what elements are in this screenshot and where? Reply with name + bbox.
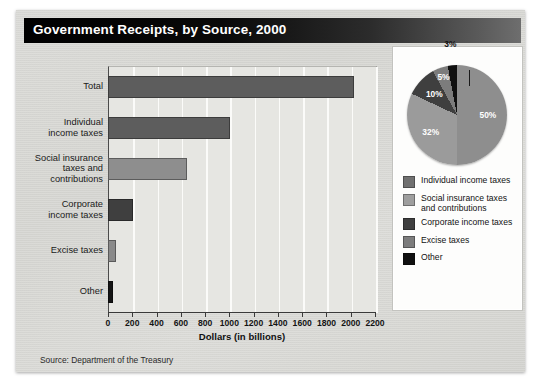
legend-item: Corporate income taxes: [403, 217, 519, 230]
x-axis-tick: [254, 312, 255, 317]
page-title: Government Receipts, by Source, 2000: [33, 22, 286, 37]
bar: [108, 76, 354, 98]
pie-chart: 50%32%10%5%3%: [407, 65, 507, 165]
x-axis-tick-label: 2000: [341, 318, 360, 328]
x-axis-tick: [205, 312, 206, 317]
pie-slice-label: 32%: [422, 127, 439, 137]
x-axis-tick-label: 1000: [220, 318, 239, 328]
bar-category-label: Other: [17, 286, 103, 297]
legend-label: Corporate income taxes: [421, 217, 512, 227]
legend-swatch: [403, 253, 415, 265]
x-axis-tick: [326, 312, 327, 317]
bar: [108, 199, 133, 221]
x-axis-tick-label: 600: [174, 318, 188, 328]
legend-swatch: [403, 218, 415, 230]
x-axis-title: Dollars (in billions): [108, 331, 376, 342]
x-axis-tick: [302, 312, 303, 317]
pie-slice-label: 3%: [444, 39, 456, 49]
pie-slice-label: 5%: [437, 72, 449, 82]
legend: Individual income taxesSocial insurance …: [403, 175, 519, 270]
bar-row: [108, 189, 133, 230]
gridline: [376, 67, 378, 313]
x-axis-tick-label: 1200: [244, 318, 263, 328]
legend-item: Social insurance taxes and contributions: [403, 193, 519, 213]
bar: [108, 281, 113, 303]
legend-swatch: [403, 176, 415, 188]
bar-category-label: Individual income taxes: [17, 117, 103, 138]
x-axis-tick-label: 200: [125, 318, 139, 328]
x-axis-tick-label: 1800: [317, 318, 336, 328]
legend-item: Other: [403, 252, 519, 265]
x-axis-line: [108, 312, 376, 313]
x-axis-tick: [229, 312, 230, 317]
x-axis-tick: [351, 312, 352, 317]
figure-card: Government Receipts, by Source, 2000 Dol…: [16, 10, 525, 372]
legend-item: Excise taxes: [403, 235, 519, 248]
legend-swatch: [403, 194, 415, 206]
bar-row: [108, 271, 113, 312]
pie-slice-label: 10%: [426, 89, 443, 99]
bar-category-label: Total: [17, 81, 103, 92]
legend-item: Individual income taxes: [403, 175, 519, 188]
x-axis-tick: [157, 312, 158, 317]
bar: [108, 158, 187, 180]
legend-label: Excise taxes: [421, 235, 469, 245]
x-axis-tick-label: 1400: [268, 318, 287, 328]
source-note: Source: Department of the Treasury: [40, 355, 173, 365]
bar-chart: Dollars (in billions) 020040060080010001…: [16, 50, 396, 350]
bar-category-label: Excise taxes: [17, 245, 103, 256]
x-axis-tick-label: 2200: [365, 318, 384, 328]
x-axis-tick: [278, 312, 279, 317]
legend-label: Other: [421, 252, 443, 262]
x-axis-tick: [108, 312, 109, 317]
bar-row: [108, 107, 230, 148]
legend-swatch: [403, 236, 415, 248]
x-axis-tick-label: 1600: [293, 318, 312, 328]
x-axis-tick-label: 800: [198, 318, 212, 328]
bar-row: [108, 66, 354, 107]
legend-label: Individual income taxes: [421, 175, 510, 185]
bar-row: [108, 148, 187, 189]
x-axis-tick: [375, 312, 376, 317]
legend-label: Social insurance taxes and contributions: [421, 193, 507, 213]
x-axis-tick: [132, 312, 133, 317]
bar: [108, 240, 116, 262]
x-axis-tick-label: 0: [106, 318, 111, 328]
bar: [108, 117, 230, 139]
bar-category-label: Social insurance taxes and contributions: [17, 153, 103, 185]
pie-leader-line: [469, 70, 470, 86]
pie-panel: 50%32%10%5%3% Individual income taxesSoc…: [392, 46, 523, 311]
x-axis-tick-label: 400: [149, 318, 163, 328]
pie-slice-label: 50%: [480, 110, 497, 120]
bar-category-label: Corporate income taxes: [17, 199, 103, 220]
x-axis-tick: [181, 312, 182, 317]
bar-row: [108, 230, 116, 271]
